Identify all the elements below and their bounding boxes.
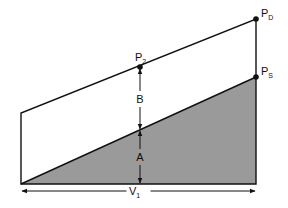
point-label: PD — [261, 7, 273, 21]
dimension-label: A — [136, 151, 144, 163]
base-dimension-v1: V1 — [22, 185, 255, 199]
pressure-volume-diagram: BA PDP2PS V1 — [0, 0, 288, 208]
point-marker — [253, 16, 259, 22]
points-group: PDP2PS — [135, 7, 273, 80]
point-label: P2 — [135, 51, 146, 65]
point-marker — [253, 74, 259, 80]
dimension-b: B — [136, 69, 143, 129]
base-label: V1 — [129, 185, 140, 199]
point-marker — [137, 64, 143, 70]
point-pd: PD — [253, 7, 273, 22]
point-label: PS — [261, 65, 273, 79]
dimension-label: B — [136, 93, 143, 105]
